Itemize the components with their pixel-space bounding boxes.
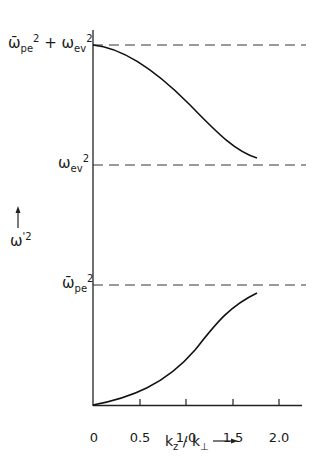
y-axis-label: ω'2 (10, 234, 32, 249)
x-tick-label: 1.5 (223, 430, 244, 445)
x-tick-label: 2.0 (269, 430, 290, 445)
y-arrow-head-icon (16, 206, 21, 213)
x-axis-label: kz / k⊥ (165, 434, 209, 448)
chart-canvas (0, 0, 325, 475)
x-ticks (140, 399, 279, 405)
label-omega-ev: ωev2 (58, 156, 89, 171)
label-omega-pe: ω̄pe2 (62, 276, 93, 291)
upper-branch-curve (93, 45, 257, 158)
x-tick-label: 0.5 (130, 430, 151, 445)
lower-branch-curve (93, 293, 257, 405)
x-tick-label: 0 (90, 430, 98, 445)
label-top-level: ω̄pe2 + ωev2 (8, 36, 93, 51)
